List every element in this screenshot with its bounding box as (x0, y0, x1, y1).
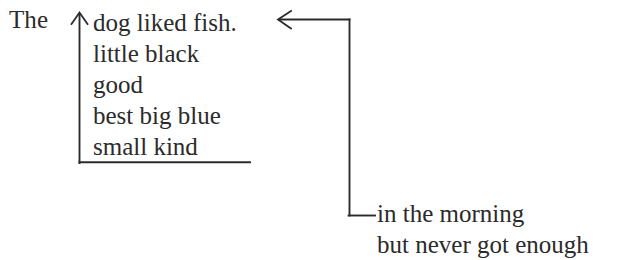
lead-word: The (9, 7, 48, 32)
stack-line-2: little black (93, 38, 237, 69)
right-bracket-left-arrow-icon (278, 11, 375, 216)
sentence-diagram-canvas: The dog liked fish. little black good be… (0, 0, 638, 260)
stack-line-5: small kind (93, 131, 237, 162)
stack-line-4: best big blue (93, 100, 237, 131)
tail-line-1: in the morning (377, 198, 589, 229)
subject-phrase-stack: dog liked fish. little black good best b… (93, 7, 237, 162)
stack-line-3: good (93, 69, 237, 100)
tail-phrase-stack: in the morning but never got enough (377, 198, 589, 260)
stack-line-1: dog liked fish. (93, 7, 237, 38)
tail-line-2: but never got enough (377, 229, 589, 260)
